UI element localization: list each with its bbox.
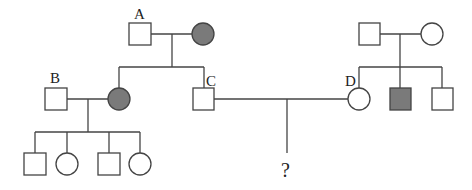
label-d: D xyxy=(345,73,356,89)
male-unaffected-b-child xyxy=(24,153,46,175)
male-unaffected-b-child xyxy=(98,153,120,175)
female-affected-a-spouse xyxy=(192,23,214,45)
connector-lines xyxy=(35,34,442,153)
female-unaffected-d xyxy=(348,88,370,110)
label-a: A xyxy=(134,6,145,22)
label-b: B xyxy=(50,70,60,86)
female-unaffected-d-mother xyxy=(421,23,443,45)
pedigree-chart: A B C D ? xyxy=(0,0,472,190)
label-c: C xyxy=(206,73,216,89)
male-unaffected-d-father xyxy=(359,23,380,45)
female-unaffected-b-child xyxy=(56,153,78,175)
male-unaffected-b xyxy=(45,88,67,110)
male-unaffected-a xyxy=(129,23,151,45)
male-unaffected-c xyxy=(193,88,214,110)
male-unaffected-d-brother xyxy=(432,88,453,110)
female-unaffected-b-child xyxy=(129,153,151,175)
unknown-offspring-label: ? xyxy=(281,159,290,181)
male-affected-d-brother xyxy=(390,88,411,110)
female-affected-b-spouse xyxy=(108,88,130,110)
